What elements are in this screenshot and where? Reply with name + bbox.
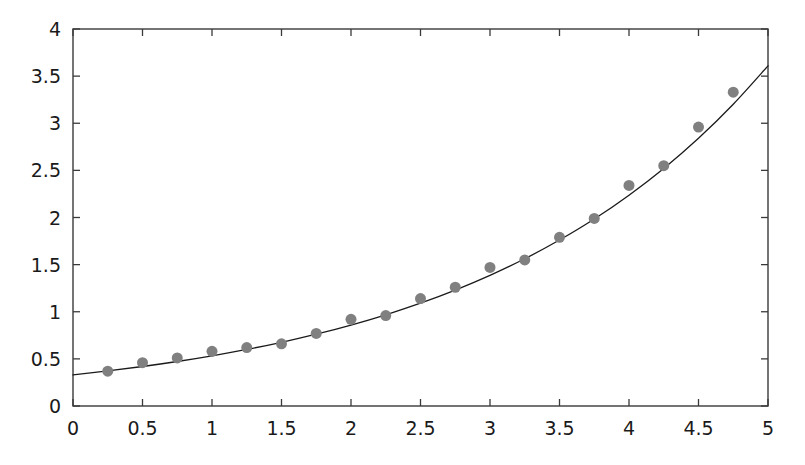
x-tick-label-8: 4 [623, 417, 635, 439]
y-tick-label-8: 4 [49, 18, 61, 40]
data-point-marker [450, 282, 461, 293]
data-point-marker [207, 346, 218, 357]
y-tick-label-2: 1 [49, 301, 61, 323]
plot-background [73, 29, 768, 406]
y-tick-label-4: 2 [49, 207, 61, 229]
data-point-marker [624, 180, 635, 191]
x-tick-label-6: 3 [484, 417, 496, 439]
x-tick-label-1: 0.5 [127, 417, 157, 439]
plot-area [73, 29, 768, 406]
data-point-marker [241, 342, 252, 353]
data-point-marker [728, 87, 739, 98]
data-point-marker [346, 314, 357, 325]
x-tick-label-5: 2.5 [405, 417, 435, 439]
data-point-marker [172, 352, 183, 363]
data-point-marker [589, 213, 600, 224]
data-point-marker [380, 310, 391, 321]
x-tick-label-7: 3.5 [544, 417, 574, 439]
data-point-marker [311, 328, 322, 339]
x-tick-label-10: 5 [762, 417, 774, 439]
data-point-marker [102, 366, 113, 377]
data-point-marker [658, 160, 669, 171]
data-point-marker [519, 254, 530, 265]
x-tick-label-2: 1 [206, 417, 218, 439]
data-point-marker [485, 262, 496, 273]
y-tick-label-1: 0.5 [31, 348, 61, 370]
x-tick-label-9: 4.5 [683, 417, 713, 439]
data-point-marker [415, 293, 426, 304]
y-tick-label-7: 3.5 [31, 65, 61, 87]
data-point-marker [554, 232, 565, 243]
data-point-marker [693, 122, 704, 133]
chart-figure: 00.511.522.533.544.55 00.511.522.533.54 [0, 0, 805, 465]
y-tick-label-6: 3 [49, 112, 61, 134]
x-tick-label-3: 1.5 [266, 417, 296, 439]
y-tick-label-5: 2.5 [31, 159, 61, 181]
y-tick-label-0: 0 [49, 395, 61, 417]
y-tick-label-3: 1.5 [31, 254, 61, 276]
data-point-marker [137, 357, 148, 368]
scatter-plot: 00.511.522.533.544.55 00.511.522.533.54 [0, 0, 805, 465]
data-point-marker [276, 338, 287, 349]
x-tick-label-4: 2 [345, 417, 357, 439]
x-tick-label-0: 0 [67, 417, 79, 439]
